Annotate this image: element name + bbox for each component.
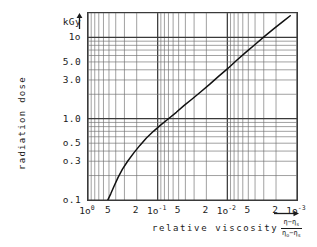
x-tick-label: 2 [133, 204, 139, 215]
x-tick-label: 1o-1 [147, 204, 166, 216]
x-axis-title: relative viscosity [152, 223, 278, 233]
y-tick-label: 5.0 [63, 55, 81, 66]
x-tick-mantissa: 1o [147, 205, 158, 216]
x-tick-exponent: -2 [228, 204, 236, 212]
x-tick-label: 5 [175, 204, 181, 215]
formula-numerator: η−ηs [281, 219, 302, 228]
chart-figure: radiation dose o.1o.3o.51.03.05.01okGy 1… [0, 0, 317, 247]
data-curve [88, 13, 297, 200]
x-tick-mantissa: 1o [79, 205, 90, 216]
y-tick-label: 3.0 [63, 73, 81, 84]
plot-area [87, 12, 298, 201]
y-tick-label: o.3 [63, 155, 81, 166]
x-tick-label: 1o-2 [217, 204, 236, 216]
x-tick-exponent: -1 [158, 204, 166, 212]
x-tick-exponent: 0 [91, 204, 95, 212]
y-axis-title: radiation dose [17, 68, 27, 178]
viscosity-formula: η−ηs ηo−ηs [281, 219, 302, 238]
x-tick-label: 1o0 [79, 204, 94, 216]
formula-denominator: ηo−ηs [281, 230, 302, 239]
x-tick-label: 5 [105, 204, 111, 215]
y-tick-label: o.5 [63, 137, 81, 148]
x-tick-mantissa: 1o [217, 205, 228, 216]
y-tick-label: 1.0 [63, 112, 81, 123]
y-tick-label: 1o [69, 31, 81, 42]
x-tick-label: 5 [244, 204, 250, 215]
x-tick-label: 2 [202, 204, 208, 215]
x-axis: 1o0521o-1521o-2521o-3 [0, 201, 317, 221]
